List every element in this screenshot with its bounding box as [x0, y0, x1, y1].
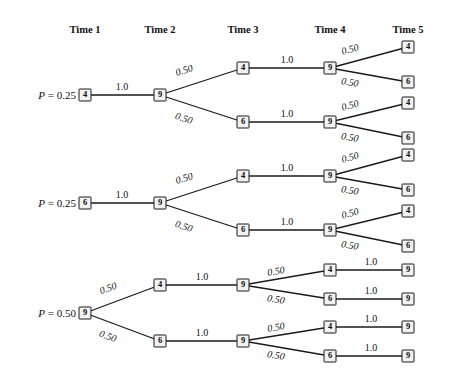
state-node: 6	[402, 132, 415, 145]
state-node: 6	[154, 335, 167, 348]
state-node: 6	[79, 197, 92, 210]
edge-probability-label: 1.0	[365, 285, 378, 296]
block-probability-label: P = 0.25	[38, 89, 76, 101]
state-node: 9	[154, 197, 167, 210]
column-header-time-1: Time 1	[69, 24, 100, 35]
state-node: 9	[79, 307, 92, 320]
probability-symbol: P	[38, 89, 45, 101]
state-node: 4	[324, 321, 337, 334]
state-node: 4	[324, 264, 337, 277]
probability-equals: =	[45, 307, 57, 319]
state-node: 6	[402, 76, 415, 89]
state-node: 9	[324, 170, 337, 183]
edge-lines-layer	[0, 0, 450, 382]
edge-line	[160, 68, 243, 95]
state-node: 6	[324, 293, 337, 306]
block-probability-label: P = 0.50	[38, 307, 76, 319]
column-header-time-3: Time 3	[227, 24, 258, 35]
edge-probability-label: 1.0	[281, 162, 294, 173]
state-node: 6	[237, 224, 250, 237]
state-node: 9	[237, 279, 250, 292]
edge-line	[243, 270, 330, 285]
edge-probability-label: 1.0	[281, 54, 294, 65]
probability-equals: =	[45, 197, 57, 209]
edge-line	[160, 176, 243, 203]
edge-probability-label: 1.0	[281, 108, 294, 119]
state-node: 4	[402, 41, 415, 54]
probability-value: 0.50	[57, 307, 76, 319]
state-node: 9	[324, 116, 337, 129]
edge-probability-label: 1.0	[365, 313, 378, 324]
diagram-canvas: Time 1Time 2Time 3Time 4Time 5 P = 0.25P…	[0, 0, 450, 382]
probability-value: 0.25	[57, 197, 76, 209]
state-node: 4	[402, 149, 415, 162]
state-node: 9	[402, 350, 415, 363]
state-node: 6	[402, 184, 415, 197]
state-node: 9	[237, 335, 250, 348]
state-node: 9	[324, 224, 337, 237]
state-node: 9	[402, 264, 415, 277]
edge-line	[160, 95, 243, 122]
column-header-time-5: Time 5	[392, 24, 423, 35]
state-node: 9	[402, 293, 415, 306]
state-node: 4	[154, 279, 167, 292]
state-node: 9	[324, 62, 337, 75]
edge-line	[243, 285, 330, 299]
probability-symbol: P	[38, 197, 45, 209]
state-node: 9	[154, 89, 167, 102]
edge-probability-label: 1.0	[196, 271, 209, 282]
state-node: 6	[402, 240, 415, 253]
state-node: 4	[237, 170, 250, 183]
edge-line	[85, 285, 160, 313]
state-node: 9	[402, 321, 415, 334]
column-header-time-4: Time 4	[314, 24, 345, 35]
probability-equals: =	[45, 89, 57, 101]
column-header-time-2: Time 2	[144, 24, 175, 35]
edge-probability-label: 1.0	[116, 189, 129, 200]
edge-probability-label: 1.0	[365, 256, 378, 267]
state-node: 4	[402, 97, 415, 110]
edge-probability-label: 1.0	[116, 81, 129, 92]
edge-line	[85, 313, 160, 341]
edge-probability-label: 1.0	[365, 342, 378, 353]
edge-line	[243, 341, 330, 356]
state-node: 4	[402, 205, 415, 218]
edge-probability-label: 1.0	[196, 327, 209, 338]
probability-value: 0.25	[57, 89, 76, 101]
edge-line	[160, 203, 243, 230]
state-node: 4	[237, 62, 250, 75]
edge-line	[243, 327, 330, 341]
state-node: 4	[79, 89, 92, 102]
block-probability-label: P = 0.25	[38, 197, 76, 209]
state-node: 6	[324, 350, 337, 363]
probability-symbol: P	[38, 307, 45, 319]
edge-probability-label: 1.0	[281, 216, 294, 227]
state-node: 6	[237, 116, 250, 129]
